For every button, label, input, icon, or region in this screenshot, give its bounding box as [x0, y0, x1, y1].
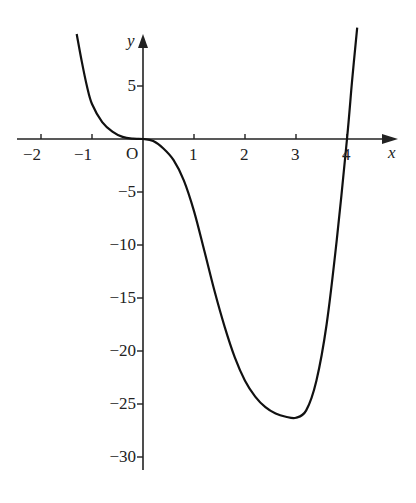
y-tick-label: −20 — [109, 342, 136, 359]
chart-canvas — [0, 0, 416, 503]
x-tick-label: 3 — [291, 146, 300, 163]
origin-label: O — [126, 145, 138, 162]
x-tick-label: 4 — [342, 146, 351, 163]
y-tick-label: −15 — [109, 289, 136, 306]
y-tick-label: −25 — [109, 395, 136, 412]
y-tick-label: −10 — [109, 236, 136, 253]
y-tick-label: −5 — [118, 183, 136, 200]
y-tick-label: 5 — [128, 77, 137, 94]
x-tick-label: 1 — [189, 146, 198, 163]
x-tick-label: −1 — [74, 146, 92, 163]
y-axis-arrow-icon — [138, 34, 148, 48]
y-tick-label: −30 — [109, 448, 136, 465]
x-axis-label: x — [388, 144, 396, 161]
axis-ticks — [41, 86, 347, 457]
x-tick-label: 2 — [240, 146, 249, 163]
x-tick-label: −2 — [23, 146, 41, 163]
y-axis-label: y — [127, 32, 135, 49]
